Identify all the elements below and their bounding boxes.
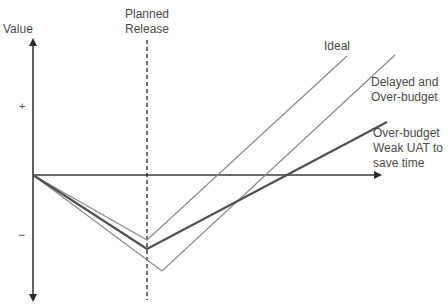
series-delayed (33, 55, 395, 271)
y-tick-minus: − (18, 228, 25, 243)
y-tick-plus: + (19, 99, 25, 114)
weak-label-line3: save time (373, 156, 443, 171)
weak-uat-label: Over-budget Weak UAT to save time (373, 126, 443, 171)
planned-label-line2: Release (125, 22, 169, 37)
series-ideal (33, 56, 347, 240)
y-axis-label: Value (3, 22, 33, 37)
weak-label-line1: Over-budget (373, 126, 443, 141)
planned-release-label: Planned Release (125, 7, 169, 37)
delayed-label-line1: Delayed and (371, 75, 438, 90)
delayed-label-line2: Over-budget (371, 90, 438, 105)
weak-label-line2: Weak UAT to (373, 141, 443, 156)
delayed-label: Delayed and Over-budget (371, 75, 438, 105)
ideal-label: Ideal (324, 39, 350, 54)
series-weak-uat (33, 122, 387, 249)
planned-label-line1: Planned (125, 7, 169, 22)
